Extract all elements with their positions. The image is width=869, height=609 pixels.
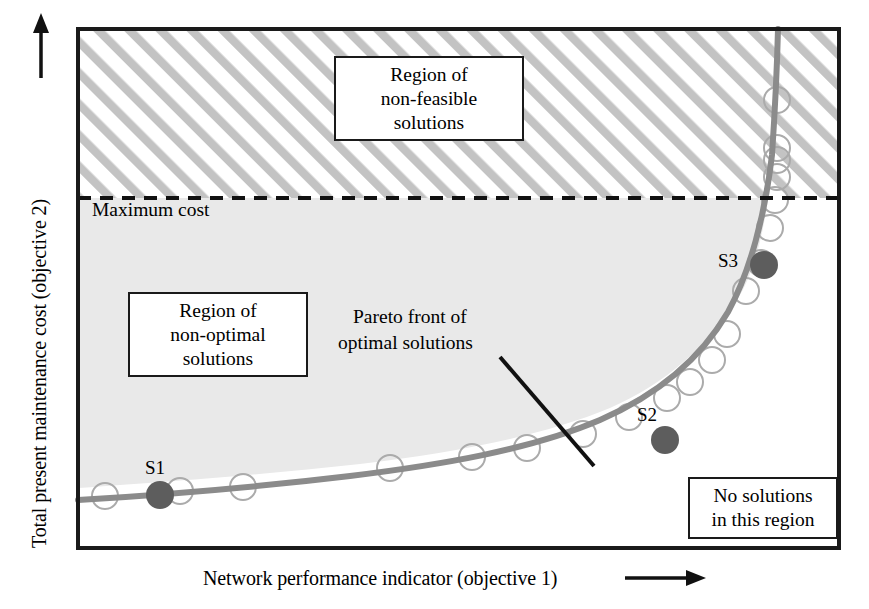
y-axis-label: Total present maintenance cost (objectiv… [28, 199, 51, 548]
point-marker-s2 [651, 426, 679, 454]
callout-non-feasible-line1: Region of [345, 63, 513, 87]
point-marker-s1 [146, 481, 174, 509]
x-axis-label: Network performance indicator (objective… [203, 567, 557, 590]
callout-non-feasible-line2: non-feasible [345, 87, 513, 111]
x-axis-arrow-icon [625, 570, 706, 586]
callout-no-solutions: No solutions in this region [688, 477, 838, 539]
callout-non-feasible-line3: solutions [345, 111, 513, 135]
callout-no-solutions-line2: in this region [699, 508, 827, 532]
maximum-cost-label: Maximum cost [92, 199, 210, 221]
point-label-s3: S3 [718, 250, 738, 272]
callout-non-optimal-line2: non-optimal [139, 323, 297, 347]
callout-non-optimal-line3: solutions [139, 347, 297, 371]
point-label-s2: S2 [637, 404, 657, 426]
pareto-front-annotation-line2: optimal solutions [338, 332, 473, 354]
point-marker-s3 [750, 251, 778, 279]
callout-non-optimal-solutions: Region of non-optimal solutions [128, 292, 308, 377]
callout-non-optimal-line1: Region of [139, 299, 297, 323]
pareto-front-figure: Total present maintenance cost (objectiv… [0, 0, 869, 609]
pareto-front-annotation-line1: Pareto front of [353, 306, 467, 328]
y-axis-arrow-icon [33, 13, 49, 78]
callout-non-feasible-solutions: Region of non-feasible solutions [334, 56, 524, 141]
point-label-s1: S1 [145, 457, 165, 479]
callout-no-solutions-line1: No solutions [699, 484, 827, 508]
